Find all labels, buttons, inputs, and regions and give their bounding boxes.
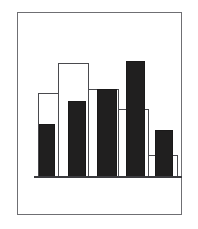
chart-baseline [34,176,182,178]
black-bar-1 [39,124,55,177]
black-bar-2 [68,101,86,177]
black-bar-4 [126,61,145,177]
plot-area [18,13,181,214]
chart-canvas [0,0,198,229]
black-bar-3 [97,89,117,177]
black-bar-5 [155,130,173,177]
chart-frame [17,12,182,215]
